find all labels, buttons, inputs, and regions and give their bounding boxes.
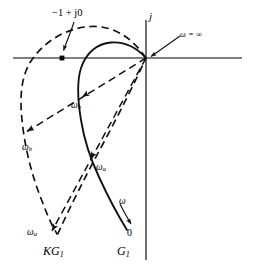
omega-infinity-label: ω = ∞ (180, 31, 202, 39)
omega-direction-label: ω (119, 197, 126, 207)
omega-zero-label: 0 (127, 228, 132, 238)
kg1-omega-a-symbol: ω (27, 227, 34, 237)
g1-omega-a-subscript: a (103, 165, 106, 172)
g1-branch (78, 42, 146, 230)
critical-point-leader-arrow (64, 22, 74, 51)
kg1-omega-b-symbol: ω (22, 142, 29, 152)
g1-omega-a-label: ωa (96, 163, 106, 173)
kg1-omega-b-subscript: b (29, 145, 32, 152)
kg1-curve-subscript: 1 (60, 250, 64, 259)
g1-locus (78, 42, 146, 230)
g1-curve-label: G1 (117, 245, 130, 259)
axis-group (13, 20, 242, 260)
kg1-omega-a-subscript: a (34, 230, 37, 237)
g1-omega-b-label: ωb (71, 101, 81, 111)
g1-omega-b-subscript: b (78, 103, 81, 110)
kg1-curve-name: KG (43, 244, 60, 258)
ray-omega-b-group (27, 58, 146, 132)
kg1-omega-b-label: ωb (22, 143, 32, 153)
ray-omega-a-group (52, 58, 146, 231)
omega-infinity-leader-arrow (151, 36, 180, 57)
ray-omega-a (52, 58, 146, 231)
g1-omega-a-symbol: ω (96, 162, 103, 172)
nyquist-plot-figure: −1 + j0 j ω = ∞ ωb ωb ωa ωa ω 0 KG1 G1 (0, 0, 255, 274)
omega-infinity-group (151, 36, 180, 57)
ray-omega-b-segment-hint (83, 81, 110, 97)
kg1-curve-label: KG1 (43, 245, 64, 259)
critical-point-marker (60, 56, 65, 61)
g1-curve-name: G (117, 244, 126, 258)
g1-curve-subscript: 1 (126, 250, 130, 259)
g1-omega-b-symbol: ω (71, 100, 78, 110)
critical-point-label: −1 + j0 (52, 8, 83, 19)
g1-omega-b-arrowhead (82, 89, 96, 97)
imaginary-axis-label: j (149, 11, 152, 22)
ray-omega-b (27, 58, 146, 132)
critical-point-group (60, 22, 74, 60)
kg1-omega-a-label: ωa (27, 228, 37, 238)
